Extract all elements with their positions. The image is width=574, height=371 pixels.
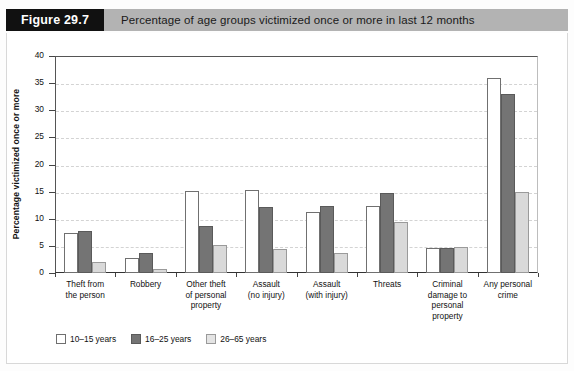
- x-axis-label-line: Any personal: [478, 279, 538, 290]
- x-axis-label: Criminaldamage topersonalproperty: [417, 279, 477, 321]
- bar: [199, 226, 213, 273]
- bar: [64, 233, 78, 273]
- x-axis-label: Any personalcrime: [478, 279, 538, 300]
- x-axis-label-line: the person: [55, 290, 115, 301]
- bar: [185, 191, 199, 273]
- legend-swatch: [131, 334, 141, 344]
- bar: [501, 94, 515, 273]
- bar: [426, 248, 440, 273]
- x-axis-label-line: property: [417, 311, 477, 322]
- bar-group: [115, 56, 175, 273]
- y-axis-tick-label: 10: [22, 213, 44, 223]
- bar-group: [417, 56, 477, 273]
- bar: [125, 258, 139, 273]
- x-axis-tick: [297, 273, 298, 277]
- x-axis-tick: [538, 273, 539, 277]
- bar: [487, 78, 501, 273]
- x-axis-tick: [55, 273, 56, 277]
- legend-swatch: [56, 334, 66, 344]
- bar: [273, 249, 287, 273]
- legend-item[interactable]: 26–65 years: [206, 334, 266, 344]
- x-axis-tick: [478, 273, 479, 277]
- bar: [78, 231, 92, 273]
- bar: [334, 253, 348, 273]
- x-axis-label-line: Assault: [297, 279, 357, 290]
- chart-legend: 10–15 years16–25 years26–65 years: [56, 334, 275, 344]
- x-axis-label: Other theftof personalproperty: [176, 279, 236, 311]
- x-axis-tick: [236, 273, 237, 277]
- x-axis-tick: [357, 273, 358, 277]
- x-axis-label-line: (no injury): [236, 290, 296, 301]
- x-axis-labels: Theft fromthe personRobberyOther theftof…: [55, 279, 538, 327]
- figure-header-bar: Figure 29.7 Percentage of age groups vic…: [6, 9, 568, 31]
- x-axis-label-line: Robbery: [115, 279, 175, 290]
- legend-label: 16–25 years: [145, 334, 191, 344]
- figure-page: Figure 29.7 Percentage of age groups vic…: [0, 0, 574, 371]
- bar-group: [176, 56, 236, 273]
- y-axis-tick-label: 5: [22, 240, 44, 250]
- x-axis-label: Robbery: [115, 279, 175, 290]
- x-axis-label-line: property: [176, 300, 236, 311]
- bar: [259, 207, 273, 273]
- legend-item[interactable]: 10–15 years: [56, 334, 116, 344]
- bar: [213, 245, 227, 273]
- y-axis-tick-label: 0: [22, 267, 44, 277]
- bar: [320, 206, 334, 273]
- x-axis-ticks: [55, 273, 538, 278]
- y-axis-tick-label: 25: [22, 131, 44, 141]
- x-axis-label-line: Other theft: [176, 279, 236, 290]
- x-axis-tick: [115, 273, 116, 277]
- x-axis-label-line: of personal: [176, 290, 236, 301]
- x-axis-label-line: crime: [478, 290, 538, 301]
- bar: [366, 206, 380, 273]
- bar: [515, 192, 529, 273]
- x-axis-label-line: (with injury): [297, 290, 357, 301]
- bar: [380, 193, 394, 273]
- x-axis-tick: [417, 273, 418, 277]
- bar-group: [297, 56, 357, 273]
- y-axis-tick-label: 30: [22, 104, 44, 114]
- bar-group: [55, 56, 115, 273]
- x-axis-label: Theft fromthe person: [55, 279, 115, 300]
- x-axis-label-line: Assault: [236, 279, 296, 290]
- bar: [306, 212, 320, 273]
- x-axis-label-line: Threats: [357, 279, 417, 290]
- y-axis-tick-label: 40: [22, 50, 44, 60]
- y-axis-tick-label: 35: [22, 77, 44, 87]
- bar-group: [357, 56, 417, 273]
- legend-label: 10–15 years: [70, 334, 116, 344]
- x-axis-label-line: Criminal: [417, 279, 477, 290]
- figure-title: Percentage of age groups victimized once…: [104, 9, 568, 31]
- x-axis-tick: [176, 273, 177, 277]
- legend-label: 26–65 years: [220, 334, 266, 344]
- y-axis-label-text: Percentage victimized once or more: [11, 89, 21, 240]
- x-axis-label-line: damage to: [417, 290, 477, 301]
- x-axis-label-line: personal: [417, 300, 477, 311]
- bar: [245, 190, 259, 273]
- bar-group: [478, 56, 538, 273]
- bar: [440, 248, 454, 273]
- bar: [454, 247, 468, 273]
- y-axis-tick-label: 15: [22, 186, 44, 196]
- y-axis-tick-label: 20: [22, 159, 44, 169]
- bar: [394, 222, 408, 273]
- figure-number: Figure 29.7: [6, 9, 104, 31]
- bar: [139, 253, 153, 273]
- bar: [92, 262, 106, 273]
- x-axis-label: Assault(no injury): [236, 279, 296, 300]
- x-axis-label: Assault(with injury): [297, 279, 357, 300]
- legend-swatch: [206, 334, 216, 344]
- bars-layer: [55, 56, 538, 273]
- bar-group: [236, 56, 296, 273]
- legend-item[interactable]: 16–25 years: [131, 334, 191, 344]
- x-axis-label-line: Theft from: [55, 279, 115, 290]
- x-axis-label: Threats: [357, 279, 417, 290]
